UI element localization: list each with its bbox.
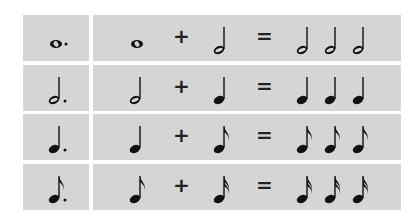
whole-note-icon — [126, 15, 152, 61]
equals-sign: = — [256, 173, 273, 197]
dotted-half-note-icon — [45, 65, 71, 111]
quarter-note-icon — [321, 65, 347, 111]
plus-sign: + — [173, 24, 190, 48]
dotted-quarter-note-icon — [45, 114, 71, 160]
eighth-note-icon — [321, 114, 347, 160]
equation-cell: + = — [93, 114, 401, 160]
equation-cell: + = — [93, 65, 401, 111]
eighth-note-icon — [349, 114, 375, 160]
table-row: + = — [23, 15, 401, 61]
dotted-note-cell — [23, 114, 89, 160]
plus-sign: + — [173, 74, 190, 98]
dotted-note-cell — [23, 65, 89, 111]
half-note-icon — [321, 15, 347, 61]
dotted-eighth-note-icon — [45, 164, 71, 210]
plus-sign: + — [173, 123, 190, 147]
equals-sign: = — [256, 123, 273, 147]
sixteenth-note-icon — [321, 164, 347, 210]
quarter-note-icon — [349, 65, 375, 111]
eighth-note-icon — [210, 114, 236, 160]
equals-sign: = — [256, 74, 273, 98]
equation-cell: + = — [93, 164, 401, 210]
sixteenth-note-icon — [293, 164, 319, 210]
quarter-note-icon — [126, 114, 152, 160]
eighth-note-icon — [293, 114, 319, 160]
dotted-whole-note-icon — [45, 15, 71, 61]
sixteenth-note-icon — [349, 164, 375, 210]
table-row: + = — [23, 164, 401, 210]
sixteenth-note-icon — [210, 164, 236, 210]
equals-sign: = — [256, 24, 273, 48]
equation-cell: + = — [93, 15, 401, 61]
plus-sign: + — [173, 173, 190, 197]
quarter-note-icon — [293, 65, 319, 111]
quarter-note-icon — [210, 65, 236, 111]
half-note-icon — [293, 15, 319, 61]
half-note-icon — [126, 65, 152, 111]
table-row: + = — [23, 114, 401, 160]
dotted-note-cell — [23, 15, 89, 61]
table-row: + = — [23, 65, 401, 111]
dotted-note-cell — [23, 164, 89, 210]
eighth-note-icon — [126, 164, 152, 210]
half-note-icon — [349, 15, 375, 61]
half-note-icon — [210, 15, 236, 61]
